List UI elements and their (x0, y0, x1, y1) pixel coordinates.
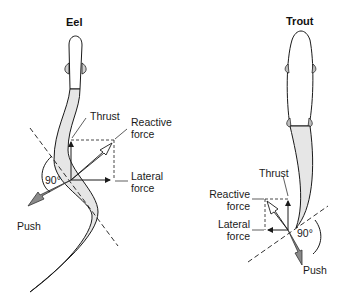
fish-propulsion-diagram (0, 0, 340, 303)
eel-reactive-label-1: Reactive (131, 116, 172, 128)
eel-fin-left (65, 63, 69, 74)
eel-reactive-label-2: force (131, 128, 154, 140)
eel-figure (28, 36, 128, 292)
trout-push-label: Push (303, 264, 327, 276)
trout-body (290, 126, 313, 228)
trout-reactive-arrow (267, 201, 288, 230)
eel-fin-right (82, 63, 86, 74)
trout-angle-arc (313, 220, 321, 254)
trout-reactive-label-2: force (204, 200, 250, 212)
eel-axis-dashed (30, 128, 118, 246)
eel-head (69, 36, 82, 89)
eel-thrust-label: Thrust (90, 110, 120, 122)
trout-title: Trout (286, 15, 314, 27)
eel-reactive-arrow (71, 143, 112, 180)
eel-lateral-label-2: force (131, 182, 154, 194)
trout-figure (248, 31, 328, 265)
trout-head (287, 31, 313, 126)
trout-lateral-label-1: Lateral (204, 218, 250, 230)
trout-lateral-label-2: force (204, 230, 250, 242)
eel-lateral-label-1: Lateral (131, 170, 163, 182)
eel-angle-label: 90° (45, 174, 61, 186)
trout-thrust-label: Thrust (259, 167, 289, 179)
trout-angle-label: 90° (297, 227, 313, 239)
eel-body (30, 89, 98, 292)
trout-reactive-label-1: Reactive (204, 188, 250, 200)
eel-title: Eel (66, 16, 83, 28)
eel-push-label: Push (17, 220, 41, 232)
